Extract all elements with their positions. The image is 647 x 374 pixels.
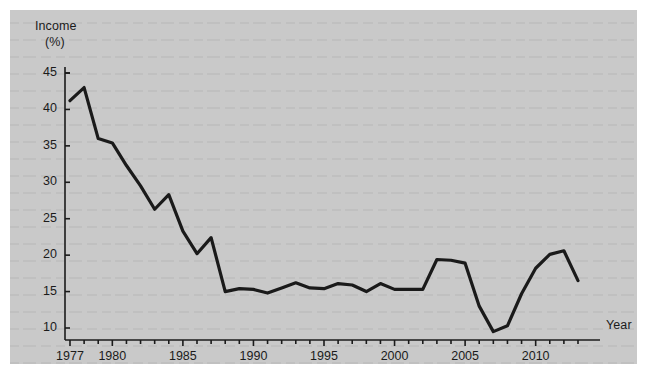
x-tick-label: 1977 [46, 349, 94, 363]
y-tick-label: 40 [31, 101, 57, 115]
y-tick-label: 25 [31, 211, 57, 225]
line-chart-plot [10, 10, 637, 364]
income-trend-line [70, 88, 578, 332]
y-axis [65, 67, 70, 340]
x-tick-label: 2000 [371, 349, 419, 363]
x-axis [65, 340, 600, 346]
x-tick-label: 2010 [512, 349, 560, 363]
x-tick-label: 1985 [159, 349, 207, 363]
x-tick-label: 1990 [229, 349, 277, 363]
x-tick-label: 1995 [300, 349, 348, 363]
y-tick-label: 15 [31, 284, 57, 298]
y-tick-label: 35 [31, 138, 57, 152]
y-tick-label: 20 [31, 247, 57, 261]
x-tick-label: 2005 [441, 349, 489, 363]
y-tick-label: 45 [31, 65, 57, 79]
figure-panel: Income (%) Year 101520253035404519771980… [10, 10, 637, 364]
x-tick-label: 1980 [88, 349, 136, 363]
y-tick-label: 30 [31, 174, 57, 188]
y-tick-label: 10 [31, 320, 57, 334]
